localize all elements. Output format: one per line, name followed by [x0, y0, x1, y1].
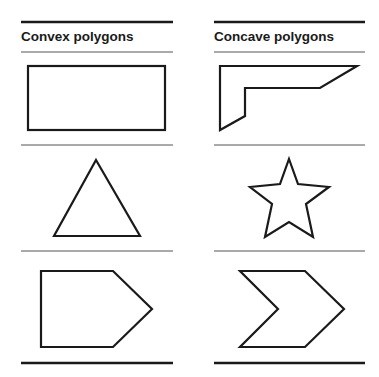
pentagon-shape — [41, 271, 152, 347]
concave-column: Concave polygons — [214, 22, 365, 363]
rectangle-shape — [28, 66, 165, 130]
convex-header: Convex polygons — [21, 29, 134, 44]
star-shape — [250, 159, 329, 237]
polygon-comparison-diagram: Convex polygons Concave polygons — [0, 0, 379, 377]
l-shape — [220, 66, 357, 130]
concave-header: Concave polygons — [214, 29, 334, 44]
convex-column: Convex polygons — [21, 22, 173, 363]
chevron-shape — [240, 271, 344, 347]
triangle-shape — [54, 160, 140, 236]
